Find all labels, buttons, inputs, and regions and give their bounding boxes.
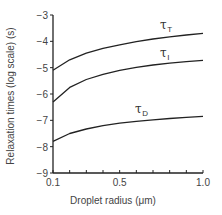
x-axis-label: Droplet radius (μm) [70, 195, 156, 206]
y-axis: −3−4−5−6−7−8−9 [37, 10, 53, 179]
relaxation-times-chart: τTτIτD −3−4−5−6−7−8−9 0.10.51.0 Droplet … [0, 0, 222, 215]
y-tick-label: −7 [37, 115, 49, 126]
series-line-i [53, 60, 203, 102]
series-label-i: τI [160, 46, 169, 62]
y-axis-label: Relaxation times (log scale) (s) [5, 27, 16, 164]
series-line-d [53, 116, 203, 141]
y-tick-label: −4 [37, 36, 49, 47]
plot-area: τTτIτD [53, 18, 203, 141]
x-tick-label: 1.0 [196, 177, 210, 188]
y-tick-label: −5 [37, 63, 49, 74]
series-label-t: τT [160, 18, 172, 34]
series-line-t [53, 33, 203, 70]
series-label-d: τD [135, 102, 148, 118]
y-tick-label: −3 [37, 10, 49, 21]
x-tick-label: 0.5 [113, 177, 127, 188]
y-tick-label: −8 [37, 142, 49, 153]
x-axis: 0.10.51.0 [46, 170, 210, 188]
y-tick-label: −6 [37, 89, 49, 100]
x-tick-label: 0.1 [46, 177, 60, 188]
